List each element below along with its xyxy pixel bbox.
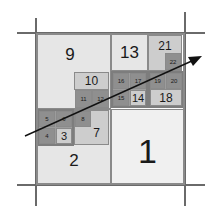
ray-arrow-icon bbox=[0, 0, 215, 218]
